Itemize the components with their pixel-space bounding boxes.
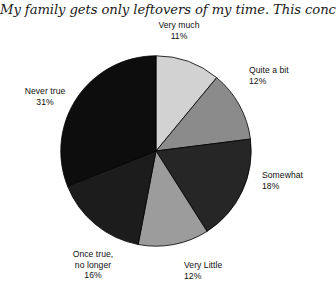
slice-label-very-little: Very Little 12% (184, 260, 260, 281)
pie-slices (61, 56, 251, 246)
slice-label-very-much-text: Very much (158, 20, 199, 30)
slice-label-quite-a-bit-text: Quite a bit (249, 65, 289, 75)
slice-label-never-true-text: Never true (25, 86, 66, 96)
slice-label-once-true-percent: 16% (55, 270, 131, 281)
slice-label-very-little-text: Very Little (184, 260, 222, 270)
pie-svg (60, 55, 252, 247)
slice-label-very-much-percent: 11% (139, 31, 219, 42)
slice-label-never-true-percent: 31% (9, 97, 81, 108)
slice-label-very-much: Very much 11% (139, 20, 219, 41)
slice-label-once-true-line2: no longer (55, 260, 131, 271)
pie-plot-area (60, 55, 252, 247)
slice-label-once-true-line1: Once true, (73, 249, 114, 259)
slice-label-somewhat-percent: 18% (262, 181, 334, 192)
slice-label-somewhat: Somewhat 18% (262, 170, 334, 191)
slice-label-quite-a-bit: Quite a bit 12% (249, 65, 325, 86)
slice-label-never-true: Never true 31% (9, 86, 81, 107)
pie-chart-figure: My family gets only leftovers of my time… (0, 0, 336, 302)
slice-label-once-true-no-longer: Once true, no longer 16% (55, 249, 131, 281)
chart-title: My family gets only leftovers of my time… (0, 1, 336, 18)
slice-label-very-little-percent: 12% (184, 271, 260, 282)
slice-label-quite-a-bit-percent: 12% (249, 76, 325, 87)
slice-label-somewhat-text: Somewhat (262, 170, 303, 180)
